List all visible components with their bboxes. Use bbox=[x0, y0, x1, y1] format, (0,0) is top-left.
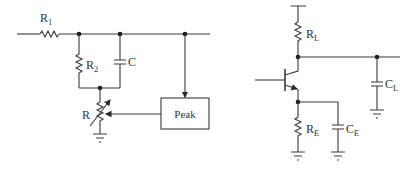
label-r2: R2 bbox=[86, 58, 98, 74]
npn-transistor bbox=[255, 57, 298, 102]
ground-icon bbox=[291, 152, 305, 160]
peak-label: Peak bbox=[174, 108, 196, 120]
label-re: RE bbox=[306, 122, 319, 138]
ground-icon bbox=[331, 152, 345, 160]
label-ce: CE bbox=[346, 122, 359, 138]
ground-icon bbox=[370, 110, 384, 118]
label-rl: RL bbox=[306, 27, 319, 43]
resistor-r1 bbox=[40, 31, 59, 37]
label-r1: R1 bbox=[40, 11, 52, 27]
collector-lead bbox=[285, 57, 298, 75]
supply-rail bbox=[291, 6, 306, 22]
resistor-re bbox=[295, 102, 301, 152]
right-circuit: RL CL RE CE bbox=[255, 6, 400, 160]
resistor-rl bbox=[295, 22, 301, 57]
resistor-r2 bbox=[76, 34, 82, 88]
label-cl: CL bbox=[385, 77, 398, 93]
wire-emitter-ce bbox=[298, 102, 338, 125]
capacitor-cl bbox=[371, 57, 383, 110]
capacitor-ce bbox=[332, 125, 344, 152]
label-r: R bbox=[82, 108, 90, 122]
capacitor-c bbox=[114, 34, 126, 88]
left-circuit: R1 R2 C R Peak bbox=[17, 11, 210, 142]
circuit-diagram: R1 R2 C R Peak RL bbox=[0, 0, 414, 177]
label-c: C bbox=[128, 55, 136, 69]
emitter-arrow-icon bbox=[285, 85, 297, 89]
ground-icon bbox=[93, 134, 107, 142]
